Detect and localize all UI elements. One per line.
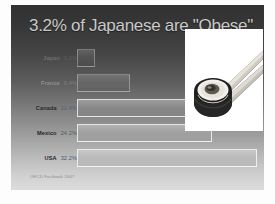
row-label-group: Canada 22.4% <box>19 97 77 119</box>
row-label-group: France 9.4% <box>19 72 77 94</box>
value-label: 24.2% <box>61 130 77 136</box>
category-label: Mexico <box>37 130 57 136</box>
bar-usa <box>77 149 257 167</box>
value-label: 22.4% <box>61 105 77 111</box>
value-label: 32.2% <box>61 155 77 161</box>
bar-france <box>77 74 130 92</box>
value-label: 9.4% <box>64 80 77 86</box>
chart-row: USA 32.2% <box>11 147 264 169</box>
sushi-roll-shape <box>194 78 232 117</box>
category-label: France <box>41 80 60 86</box>
presentation-slide: 3.2% of Japanese are "Obese" Japan 3.2% … <box>11 5 264 190</box>
chart-source-note: OECD Factbook 2007 <box>30 174 75 179</box>
category-label: Canada <box>36 105 57 111</box>
bar-track <box>77 149 257 167</box>
sushi-roll-with-chopsticks-photo <box>185 29 263 131</box>
bar-japan <box>77 49 95 67</box>
row-label-group: Japan 3.2% <box>19 47 77 69</box>
row-label-group: Mexico 24.2% <box>19 122 77 144</box>
screenshot-canvas: 3.2% of Japanese are "Obese" Japan 3.2% … <box>0 0 275 204</box>
bar-canada <box>77 99 202 117</box>
value-label: 3.2% <box>64 55 77 61</box>
row-label-group: USA 32.2% <box>19 147 77 169</box>
category-label: Japan <box>43 55 60 61</box>
category-label: USA <box>45 155 57 161</box>
